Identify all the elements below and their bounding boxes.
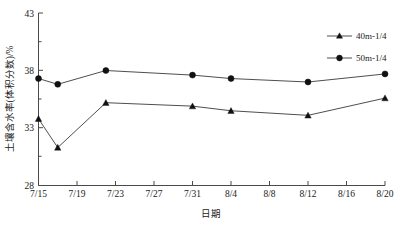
x-tick-label-8: 8/16 <box>338 189 355 199</box>
x-axis-title: 日期 <box>201 209 221 219</box>
x-tick-label-7: 8/12 <box>300 189 317 199</box>
y-axis-ticks <box>39 13 44 186</box>
legend-item-40m[interactable]: 40m-1/4 <box>327 31 387 41</box>
line-chart: 43 38 33 28 土壤含水率(体积分数)/% 7/15 7/19 7/23… <box>0 0 401 235</box>
x-tick-label-3: 7/27 <box>146 189 163 199</box>
legend-label-40m: 40m-1/4 <box>356 31 387 41</box>
y-tick-label-38: 38 <box>25 66 35 76</box>
x-tick-label-1: 7/19 <box>69 189 86 199</box>
y-tick-label-33: 33 <box>25 123 35 133</box>
triangle-marker-icon <box>336 33 342 38</box>
triangle-marker-icon[interactable] <box>35 116 41 122</box>
x-tick-label-6: 8/8 <box>263 189 275 199</box>
x-tick-label-9: 8/20 <box>377 189 394 199</box>
series-line-0 <box>39 98 386 147</box>
circle-marker-icon[interactable] <box>382 71 388 77</box>
circle-marker-icon <box>337 55 343 61</box>
y-axis-title: 土壤含水率(体积分数)/% <box>4 45 16 152</box>
x-tick-label-2: 7/23 <box>107 189 124 199</box>
circle-marker-icon[interactable] <box>36 76 42 82</box>
series-40m-1-4 <box>35 95 388 150</box>
x-axis-ticks <box>39 181 386 186</box>
x-tick-label-0: 7/15 <box>30 189 47 199</box>
circle-marker-icon[interactable] <box>55 81 61 87</box>
series-50m-1-4 <box>36 68 389 88</box>
circle-marker-icon[interactable] <box>190 72 196 78</box>
y-tick-label-43: 43 <box>25 9 35 19</box>
x-tick-label-4: 7/31 <box>184 189 201 199</box>
legend-item-50m[interactable]: 50m-1/4 <box>327 53 387 63</box>
chart-container: 43 38 33 28 土壤含水率(体积分数)/% 7/15 7/19 7/23… <box>0 0 401 235</box>
legend-label-50m: 50m-1/4 <box>356 53 387 63</box>
circle-marker-icon[interactable] <box>305 79 311 85</box>
circle-marker-icon[interactable] <box>228 76 234 82</box>
triangle-marker-icon[interactable] <box>382 95 388 101</box>
circle-marker-icon[interactable] <box>103 68 109 74</box>
series-layer <box>35 68 388 151</box>
chart-legend: 40m-1/4 50m-1/4 <box>327 31 387 63</box>
x-tick-label-5: 8/4 <box>225 189 237 199</box>
series-line-1 <box>39 71 386 85</box>
